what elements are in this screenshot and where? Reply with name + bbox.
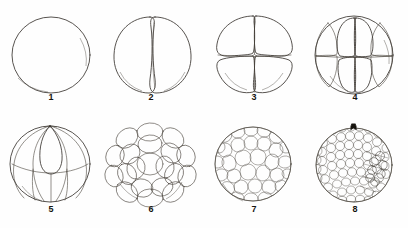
stage-5-label: 5 [0, 204, 102, 214]
animal-pole-marker-glyph [351, 124, 357, 131]
stage-6-illustration [100, 112, 202, 208]
stage-4-illustration [304, 0, 406, 96]
stage-figure-7: 7 [203, 112, 305, 226]
stage-figure-2: 2 [100, 0, 202, 114]
stage-figure-6: 6 [100, 112, 202, 226]
figure-plate: 1 [0, 0, 408, 228]
stage-7-illustration [203, 112, 305, 208]
stage-figure-1: 1 [0, 0, 102, 114]
stage-8-illustration [304, 112, 406, 208]
stage-8-label: 8 [304, 204, 406, 214]
stage-2-illustration [100, 0, 202, 96]
stage-4-label: 4 [304, 92, 406, 102]
stage-5-illustration [0, 112, 102, 208]
stage-1-label: 1 [0, 92, 102, 102]
stage-7-label: 7 [203, 204, 305, 214]
stage-figure-3: 3 [203, 0, 305, 114]
stage-3-illustration [203, 0, 305, 96]
stage-2-label: 2 [100, 92, 202, 102]
stage-6-label: 6 [100, 204, 202, 214]
stage-figure-5: 5 [0, 112, 102, 226]
stage-figure-4: 4 [304, 0, 406, 114]
stage-figure-8: 8 [304, 112, 406, 226]
stage-1-illustration [0, 0, 102, 96]
stage-3-label: 3 [203, 92, 305, 102]
